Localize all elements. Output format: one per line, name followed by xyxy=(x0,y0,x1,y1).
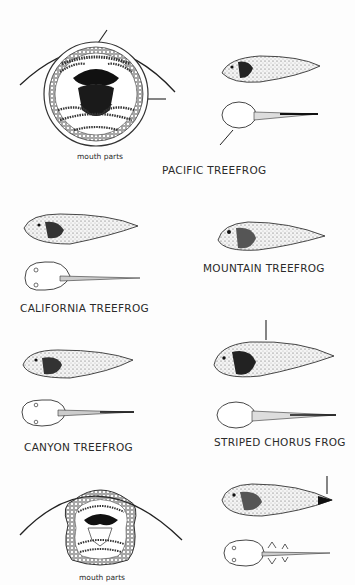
bottom-mouth-parts-label: mouth parts xyxy=(79,573,125,582)
field-guide-page: mouth parts PACIFIC TREEFROG MOUNTAIN TR… xyxy=(0,0,355,585)
striped-chorus-frog-label: STRIPED CHORUS FROG xyxy=(214,436,346,448)
pacific-tadpole-side-view xyxy=(222,56,320,82)
california-tadpole-top-view xyxy=(25,262,140,290)
pacific-mouth-parts-label: mouth parts xyxy=(77,152,123,161)
canyon-tadpole-side-view xyxy=(23,350,133,378)
pacific-tadpole-top-view xyxy=(220,102,318,145)
pacific-mouth-parts-drawing xyxy=(20,30,175,146)
pacific-treefrog-label: PACIFIC TREEFROG xyxy=(162,164,266,176)
striped-chorus-tadpole-side-view xyxy=(214,320,334,377)
tadpole-illustrations xyxy=(0,0,355,585)
california-tadpole-side-view xyxy=(24,214,138,244)
bottom-tadpole-side-view xyxy=(222,476,333,516)
canyon-tadpole-top-view xyxy=(22,400,134,426)
bottom-tadpole-top-view xyxy=(224,540,330,566)
california-treefrog-label: CALIFORNIA TREEFROG xyxy=(20,302,149,314)
striped-chorus-tadpole-top-view xyxy=(217,402,336,428)
bottom-mouth-parts-drawing xyxy=(20,490,182,565)
canyon-treefrog-label: CANYON TREEFROG xyxy=(24,441,133,453)
mountain-treefrog-label: MOUNTAIN TREEFROG xyxy=(203,262,325,274)
mountain-tadpole-side-view xyxy=(218,222,325,250)
